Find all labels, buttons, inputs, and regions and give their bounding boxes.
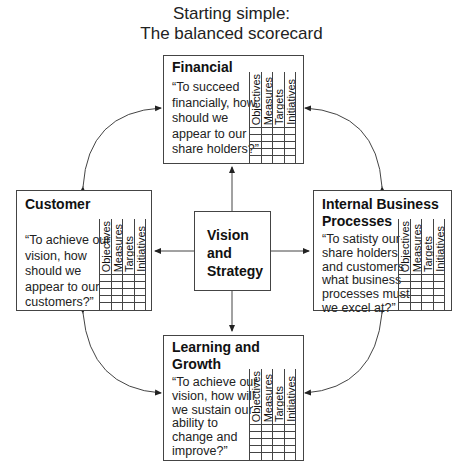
internal-question: “To satisty our share holders and custom… xyxy=(322,233,410,316)
customer-question: “To achieve our vision, how should we ap… xyxy=(25,233,110,311)
customer-heading: Customer xyxy=(25,196,90,213)
perspective-financial: Financial “To succeed financially, how s… xyxy=(163,55,304,164)
financial-heading: Financial xyxy=(172,59,233,76)
learning-heading: Learning and Growth xyxy=(172,339,260,373)
perspective-customer: Customer “To achieve our vision, how sho… xyxy=(16,190,152,311)
arrow-customer-learning xyxy=(83,313,161,393)
vision-and-strategy-box: Vision and Strategy xyxy=(194,211,271,291)
financial-question: “To succeed financially, how should we a… xyxy=(172,80,259,158)
perspective-learning-and-growth: Learning and Growth “To achieve our visi… xyxy=(163,335,304,461)
arrow-internal-learning xyxy=(305,313,382,393)
learning-scorecard-grid: Objectives Measures Targets Initiatives xyxy=(249,369,296,461)
internal-scorecard-grid: Objectives Measures Targets Initiatives xyxy=(398,219,445,311)
learning-question: “To achieve our vision, how will we sust… xyxy=(172,376,257,459)
customer-scorecard-grid: Objectives Measures Targets Initiatives xyxy=(99,219,146,311)
arrow-customer-financial xyxy=(83,108,161,187)
financial-scorecard-grid: Objectives Measures Targets Initiatives xyxy=(249,72,296,164)
arrow-internal-financial xyxy=(305,108,382,187)
vision-and-strategy-label: Vision and Strategy xyxy=(207,226,263,280)
perspective-internal-business-processes: Internal Business Processes “To satisty … xyxy=(313,190,452,311)
